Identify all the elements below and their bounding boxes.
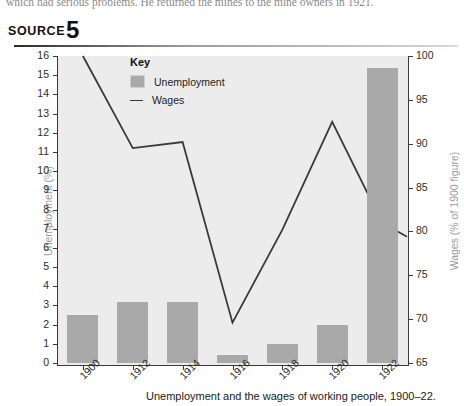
y-axis-left-tick	[53, 286, 58, 287]
y-axis-left-tick	[53, 94, 58, 95]
source-header: SOURCE 5	[8, 20, 456, 46]
y-axis-left-label: 16	[9, 49, 49, 61]
chart-legend: Key Unemployment Wages	[130, 56, 260, 112]
legend-label-wages: Wages	[152, 94, 184, 106]
legend-item-wages: Wages	[130, 94, 260, 106]
y-axis-right-tick	[408, 231, 413, 232]
source-divider	[14, 45, 458, 47]
y-axis-left-tick	[53, 171, 58, 172]
y-axis-left-tick	[53, 114, 58, 115]
y-axis-right-label: 100	[416, 49, 456, 61]
y-axis-left-label: 15	[9, 68, 49, 80]
legend-line-icon	[130, 100, 143, 101]
y-axis-left-tick	[53, 363, 58, 364]
y-axis-right-label: 90	[416, 137, 456, 149]
source-figure-page: which had serious problems. He returned …	[0, 0, 464, 406]
y-axis-left-label: 5	[9, 260, 49, 272]
y-axis-left-tick	[53, 152, 58, 153]
source-label: SOURCE	[8, 24, 65, 38]
y-axis-left-tick	[53, 305, 58, 306]
figure-caption: Unemployment and the wages of working pe…	[146, 390, 464, 402]
y-axis-left-label: 10	[9, 164, 49, 176]
y-axis-right-label: 80	[416, 224, 456, 236]
y-axis-left-tick	[53, 56, 58, 57]
page-body-text: which had serious problems. He returned …	[6, 0, 458, 10]
y-axis-left-label: 2	[9, 318, 49, 330]
y-axis-left-label: 12	[9, 126, 49, 138]
y-axis-right-label: 95	[416, 93, 456, 105]
y-axis-right-tick	[408, 363, 413, 364]
y-axis-right-tick	[408, 144, 413, 145]
y-axis-left-label: 3	[9, 298, 49, 310]
chart-container: Unemployment (%) Wages (% of 1900 figure…	[0, 48, 464, 388]
y-axis-left-tick	[53, 229, 58, 230]
source-number: 5	[66, 18, 79, 42]
legend-title: Key	[130, 56, 260, 68]
y-axis-left-label: 6	[9, 241, 49, 253]
y-axis-left-tick	[53, 248, 58, 249]
bar-1914	[167, 302, 198, 363]
y-axis-right-title: Wages (% of 1900 figure)	[448, 151, 460, 270]
legend-label-unemployment: Unemployment	[154, 76, 225, 88]
y-axis-right-tick	[408, 275, 413, 276]
legend-swatch-icon	[130, 75, 145, 88]
y-axis-right-label: 65	[416, 356, 456, 368]
bar-1922	[367, 68, 398, 363]
y-axis-left-label: 9	[9, 183, 49, 195]
y-axis-right-label: 75	[416, 268, 456, 280]
y-axis-right-label: 70	[416, 312, 456, 324]
y-axis-left-label: 1	[9, 337, 49, 349]
y-axis-left-label: 4	[9, 279, 49, 291]
y-axis-left-label: 0	[9, 356, 49, 368]
y-axis-right-tick	[408, 319, 413, 320]
y-axis-left-label: 7	[9, 222, 49, 234]
y-axis-right-tick	[408, 188, 413, 189]
y-axis-left-tick	[53, 190, 58, 191]
y-axis-right-tick	[408, 100, 413, 101]
y-axis-left-tick	[53, 267, 58, 268]
y-axis-left-tick	[53, 325, 58, 326]
bar-1912	[117, 302, 148, 363]
y-axis-left-tick	[53, 344, 58, 345]
legend-item-unemployment: Unemployment	[130, 75, 260, 88]
y-axis-left-tick	[53, 133, 58, 134]
y-axis-right-label: 85	[416, 181, 456, 193]
y-axis-left-label: 13	[9, 107, 49, 119]
y-axis-left-label: 14	[9, 87, 49, 99]
y-axis-left-tick	[53, 75, 58, 76]
y-axis-right-tick	[408, 56, 413, 57]
y-axis-left-tick	[53, 210, 58, 211]
y-axis-left-label: 11	[9, 145, 49, 157]
y-axis-left-label: 8	[9, 203, 49, 215]
